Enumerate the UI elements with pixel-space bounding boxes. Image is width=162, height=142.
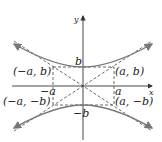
y-axis-label: y	[73, 15, 79, 24]
tick-label-neg-b: −b	[73, 107, 89, 120]
tick-label-b: b	[75, 55, 82, 68]
upper-right-arrow-icon	[146, 44, 152, 48]
point-label-top-right: (a, b)	[115, 65, 144, 78]
lower-right-arrow-icon	[146, 125, 152, 129]
point-label-bottom-left: (−a, −b)	[3, 95, 51, 108]
point-label-bottom-right: (a, −b)	[115, 95, 153, 108]
hyperbola-diagram: y x b −b −a a (−a, b) (a, b) (−a, −b) (a…	[0, 0, 162, 142]
point-label-top-left: (−a, b)	[13, 65, 51, 78]
